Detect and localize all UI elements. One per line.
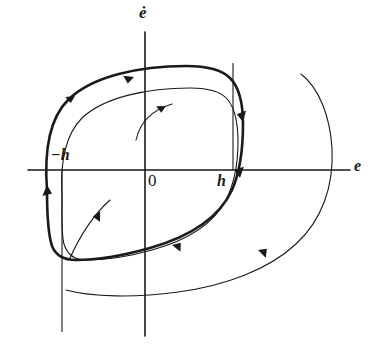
vertical-axis-label: ė bbox=[139, 4, 147, 21]
trajectory-curves-group bbox=[46, 66, 332, 296]
curve-lower-inner-spiral-arc bbox=[70, 200, 110, 258]
arrow-bottom-mid bbox=[171, 241, 183, 252]
curve-upper-inner-spiral-arc bbox=[136, 104, 172, 140]
arrow-upper-inner-spiral bbox=[156, 103, 167, 114]
phase-portrait-figure: ė e 0 −h h bbox=[0, 0, 380, 350]
arrow-upper-mid bbox=[123, 73, 135, 84]
origin-label: 0 bbox=[148, 172, 157, 189]
curve-outer-transient-trajectory bbox=[66, 74, 332, 296]
positive-threshold-label: h bbox=[217, 173, 226, 189]
arrow-left-ascend bbox=[42, 185, 52, 196]
phase-portrait-canvas bbox=[0, 0, 380, 350]
negative-threshold-label: −h bbox=[51, 147, 70, 163]
arrow-bottom-outer bbox=[256, 246, 269, 258]
switching-lines-group bbox=[62, 63, 233, 332]
direction-arrows-group bbox=[42, 73, 269, 258]
horizontal-axis-label: e bbox=[354, 158, 361, 174]
